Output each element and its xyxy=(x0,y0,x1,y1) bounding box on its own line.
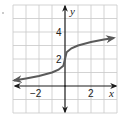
stray-mark xyxy=(2,12,4,14)
y-axis-label: y xyxy=(69,5,75,17)
tick-label-x-neg2: −2 xyxy=(30,88,42,99)
tick-label-y-2: 2 xyxy=(56,54,62,65)
tick-label-x-2: 2 xyxy=(88,88,94,99)
x-axis-label: x xyxy=(108,87,114,99)
tick-label-y-4: 4 xyxy=(56,27,62,38)
cube-root-graph: −2 2 2 4 y x xyxy=(0,0,119,117)
